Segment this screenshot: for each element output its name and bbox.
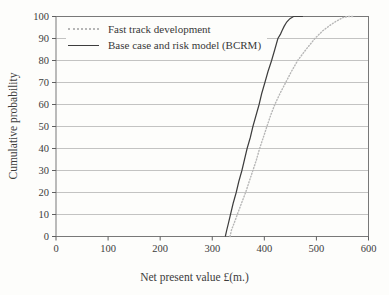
y-tick-label-90: 90 — [39, 33, 50, 44]
legend-item-fast-track: Fast track development — [68, 22, 261, 36]
y-tick-label-70: 70 — [39, 77, 50, 88]
y-axis-title: Cumulative probability — [7, 73, 19, 180]
y-tick-label-10: 10 — [39, 209, 50, 220]
y-tick-label-30: 30 — [39, 165, 50, 176]
x-tick-label-600: 600 — [361, 243, 377, 254]
x-tick-label-200: 200 — [152, 243, 168, 254]
chart-legend: Fast track development Base case and ris… — [66, 21, 267, 54]
bcrm-line-swatch — [68, 45, 99, 46]
y-tick-label-60: 60 — [39, 99, 50, 110]
x-tick-label-100: 100 — [100, 243, 116, 254]
x-axis-title: Net present value £(m.) — [0, 271, 389, 283]
legend-label-fast-track: Fast track development — [108, 23, 211, 35]
y-tick-label-0: 0 — [44, 231, 49, 242]
y-tick-label-50: 50 — [39, 121, 50, 132]
y-tick-label-80: 80 — [39, 55, 50, 66]
legend-item-bcrm: Base case and risk model (BCRM) — [68, 38, 261, 52]
y-tick-label-100: 100 — [33, 11, 49, 22]
y-tick-label-20: 20 — [39, 187, 50, 198]
fast-track-line-swatch — [68, 28, 99, 30]
legend-label-bcrm: Base case and risk model (BCRM) — [108, 39, 261, 51]
x-tick-label-0: 0 — [53, 243, 58, 254]
x-tick-label-300: 300 — [204, 243, 220, 254]
y-tick-label-40: 40 — [39, 143, 50, 154]
x-tick-label-500: 500 — [309, 243, 325, 254]
cumulative-probability-chart: 0102030405060708090100010020030040050060… — [0, 0, 389, 295]
x-tick-label-400: 400 — [256, 243, 272, 254]
